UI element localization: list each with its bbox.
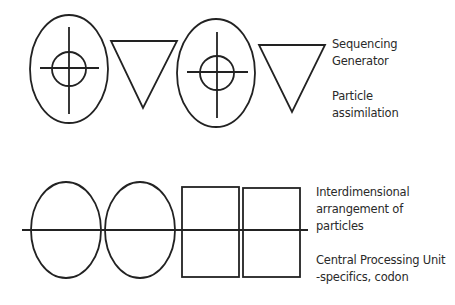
square-symbol-1 [182, 187, 239, 277]
square-symbol-2 [243, 188, 300, 277]
inverted-triangle-symbol-2 [259, 45, 325, 112]
label-line: Generator [332, 53, 397, 70]
label-line: -specifics, codon [316, 269, 445, 286]
outer-ellipse [177, 19, 255, 127]
crosshair-ellipse-symbol-2 [177, 19, 255, 127]
label-line: assimilation [332, 105, 399, 122]
inverted-triangle-symbol-1 [111, 41, 177, 108]
label-line: Interdimensional [316, 184, 409, 201]
label-interdimensional-arrangement: Interdimensional arrangement of particle… [316, 184, 409, 235]
label-central-processing-unit: Central Processing Unit -specifics, codo… [316, 252, 445, 286]
label-sequencing-generator: Sequencing Generator [332, 36, 397, 70]
label-line: particles [316, 218, 409, 235]
crosshair-ellipse-symbol-1 [30, 15, 108, 123]
label-line: Central Processing Unit [316, 252, 445, 269]
label-line: Particle [332, 88, 399, 105]
label-particle-assimilation: Particle assimilation [332, 88, 399, 122]
label-line: Sequencing [332, 36, 397, 53]
label-line: arrangement of [316, 201, 409, 218]
